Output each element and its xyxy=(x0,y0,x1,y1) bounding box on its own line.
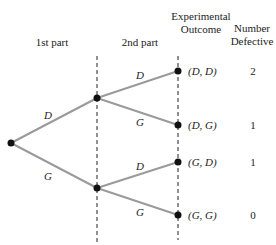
defective-count-dd: 2 xyxy=(250,65,256,77)
leaf-node-gd xyxy=(175,159,182,166)
leaf-node-dg xyxy=(175,122,182,129)
outcome-gd: (G, D) xyxy=(188,156,217,168)
branch-label-stage1-d: D xyxy=(44,109,52,121)
header-outcome-line2: Outcome xyxy=(181,23,221,35)
branch-label-stage2-dg: G xyxy=(136,116,144,128)
root-node xyxy=(8,140,15,147)
node-d xyxy=(94,95,101,102)
header-outcome-line1: Experimental xyxy=(171,10,230,22)
leaf-node-gg xyxy=(175,212,182,219)
defective-count-gd: 1 xyxy=(250,156,256,168)
branch-label-stage2-gg: G xyxy=(136,206,144,218)
tree-diagram: 1st part 2nd part Experimental Outcome N… xyxy=(0,0,276,245)
defective-count-gg: 0 xyxy=(250,209,256,221)
edge-root-to-g xyxy=(11,143,97,188)
defective-count-dg: 1 xyxy=(250,119,256,131)
outcome-dg: (D, G) xyxy=(188,119,217,131)
branch-label-stage1-g: G xyxy=(44,170,52,182)
outcome-gg: (G, G) xyxy=(188,209,217,221)
outcome-dd: (D, D) xyxy=(188,65,217,77)
header-defective-line2: Defective xyxy=(231,35,274,47)
header-defective-line1: Number xyxy=(234,22,270,34)
node-g xyxy=(94,185,101,192)
branch-label-stage2-dd: D xyxy=(136,69,144,81)
header-stage2: 2nd part xyxy=(122,36,158,48)
leaf-node-dd xyxy=(175,68,182,75)
header-stage1: 1st part xyxy=(36,36,69,48)
branch-label-stage2-gd: D xyxy=(136,160,144,172)
edge-root-to-d xyxy=(11,98,97,143)
